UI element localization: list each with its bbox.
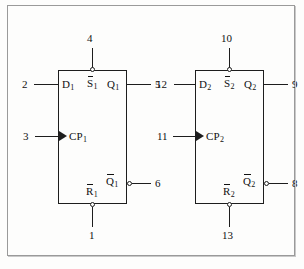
ff1-set-label: S1 [87, 78, 98, 91]
ff2-clk-pin-number: 11 [157, 131, 168, 142]
ff1-qbar-pin-number: 6 [155, 178, 161, 189]
ff2-dynamic-input-triangle-icon [196, 131, 204, 141]
ff2-set-inversion-bubble-icon [227, 67, 232, 72]
ff1-reset-wire [92, 207, 93, 227]
ff1-reset-label: R1 [86, 186, 98, 199]
ff2-clk-label: CP2 [206, 131, 224, 144]
ff1-set-pin-number: 4 [87, 33, 93, 44]
ff1-qbar-wire [132, 183, 151, 184]
ff2-set-wire [229, 48, 230, 68]
ff1-clk-label: CP1 [69, 131, 87, 144]
ff1-qbar-label: Q1 [106, 176, 118, 189]
logic-diagram-figure: 2 D1 3 CP1 4 S1 1 R1 5 Q1 6 Q1 12 D2 [0, 0, 304, 269]
ff2-reset-pin-number: 13 [222, 230, 233, 241]
ff2-q-wire [264, 84, 288, 85]
ff2-q-pin-number: 9 [292, 79, 298, 90]
ff1-d-label: D1 [62, 79, 74, 92]
ff1-reset-pin-number: 1 [89, 230, 95, 241]
ff1-clk-pin-number: 3 [23, 131, 29, 142]
ff2-reset-wire [229, 207, 230, 227]
ff1-set-inversion-bubble-icon [90, 67, 95, 72]
ff1-d-pin-number: 2 [22, 79, 28, 90]
ff2-set-label: S2 [224, 78, 235, 91]
page-border: 2 D1 3 CP1 4 S1 1 R1 5 Q1 6 Q1 12 D2 [7, 5, 295, 256]
ff1-set-wire [92, 48, 93, 68]
ff2-set-pin-number: 10 [221, 33, 232, 44]
ff2-d-label: D2 [199, 79, 211, 92]
ff2-qbar-pin-number: 8 [292, 178, 298, 189]
ff1-clk-wire [35, 136, 58, 137]
ff2-d-pin-number: 12 [156, 79, 167, 90]
ff2-d-wire [174, 84, 195, 85]
ff1-q-label: Q1 [107, 79, 119, 92]
ff1-reset-inversion-bubble-icon [90, 202, 95, 207]
ff1-d-wire [34, 84, 58, 85]
ff1-q-wire [127, 84, 151, 85]
ff2-reset-label: R2 [223, 186, 235, 199]
ff2-qbar-label: Q2 [243, 176, 255, 189]
ff1-dynamic-input-triangle-icon [59, 131, 67, 141]
ff2-reset-inversion-bubble-icon [227, 202, 232, 207]
ff2-q-label: Q2 [244, 79, 256, 92]
ff2-qbar-wire [269, 183, 288, 184]
ff2-clk-wire [173, 136, 195, 137]
